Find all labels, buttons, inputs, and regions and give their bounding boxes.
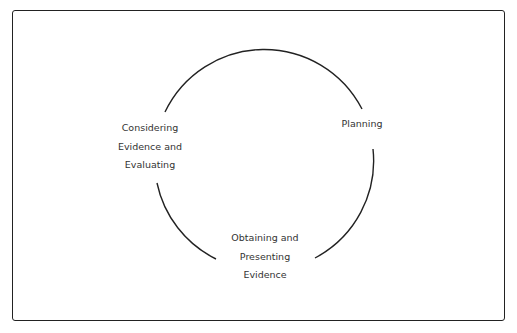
stage-considering-evidence-evaluating: Considering Evidence and Evaluating: [118, 119, 182, 175]
arc-considering-to-planning: [165, 49, 362, 112]
stage-planning: Planning: [342, 115, 383, 134]
arc-planning-to-obtaining: [315, 149, 374, 258]
arc-obtaining-to-considering: [157, 183, 216, 259]
stage-obtaining-presenting-evidence: Obtaining and Presenting Evidence: [231, 229, 298, 285]
